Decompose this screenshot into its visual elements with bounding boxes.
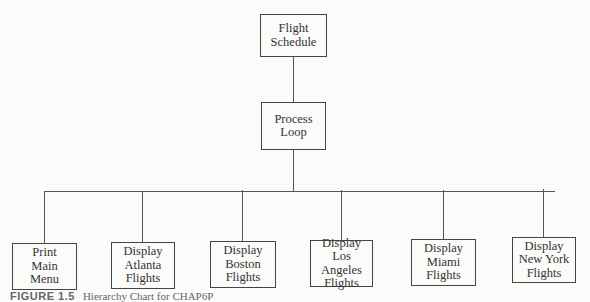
node-label-line: Los Angeles: [311, 250, 372, 277]
node-label-line: Schedule: [271, 36, 317, 50]
node-display-los-angeles-flights: Display Los Angeles Flights: [310, 240, 373, 287]
node-label-line: Main: [31, 260, 57, 274]
node-label-line: Flight: [279, 22, 309, 36]
connector-bus: [44, 191, 555, 192]
node-label-line: Print: [32, 246, 56, 260]
figure-number: FIGURE 1.5: [10, 290, 75, 302]
node-display-new-york-flights: Display New York Flights: [512, 237, 576, 283]
node-label-line: Display: [224, 244, 263, 258]
figure-caption: FIGURE 1.5Hierarchy Chart for CHAP6P: [10, 290, 213, 302]
node-label-line: Loop: [280, 126, 306, 140]
node-label-line: Flights: [226, 271, 261, 285]
node-display-boston-flights: Display Boston Flights: [210, 241, 276, 288]
connector-child-4: [341, 190, 342, 240]
node-display-atlanta-flights: Display Atlanta Flights: [111, 242, 175, 289]
node-label-line: Boston: [225, 258, 260, 272]
node-label-line: Flights: [426, 269, 461, 283]
node-label-line: Display: [525, 240, 564, 254]
connector-child-5: [443, 190, 444, 239]
node-label-line: Menu: [30, 273, 59, 287]
node-label-line: Flights: [527, 267, 562, 281]
node-label-line: Display: [424, 242, 463, 256]
node-label-line: Display: [124, 245, 163, 259]
node-label-line: Flights: [126, 272, 161, 286]
node-print-main-menu: Print Main Menu: [12, 243, 77, 290]
figure-title: Hierarchy Chart for CHAP6P: [83, 290, 213, 302]
node-label-line: Display: [322, 237, 361, 251]
node-label-line: Process: [274, 113, 312, 127]
node-flight-schedule: Flight Schedule: [260, 14, 327, 57]
node-label-line: Miami: [427, 256, 460, 270]
node-display-miami-flights: Display Miami Flights: [411, 239, 476, 286]
node-process-loop: Process Loop: [261, 102, 326, 150]
connector-loop-to-bus: [293, 150, 294, 192]
node-label-line: Flights: [324, 277, 359, 291]
node-label-line: Atlanta: [125, 259, 162, 273]
connector-child-3: [242, 190, 243, 241]
connector-child-6: [543, 189, 544, 237]
connector-child-1: [44, 191, 45, 243]
connector-child-2: [142, 191, 143, 242]
node-label-line: New York: [519, 253, 570, 267]
connector-root-to-loop: [293, 56, 294, 102]
